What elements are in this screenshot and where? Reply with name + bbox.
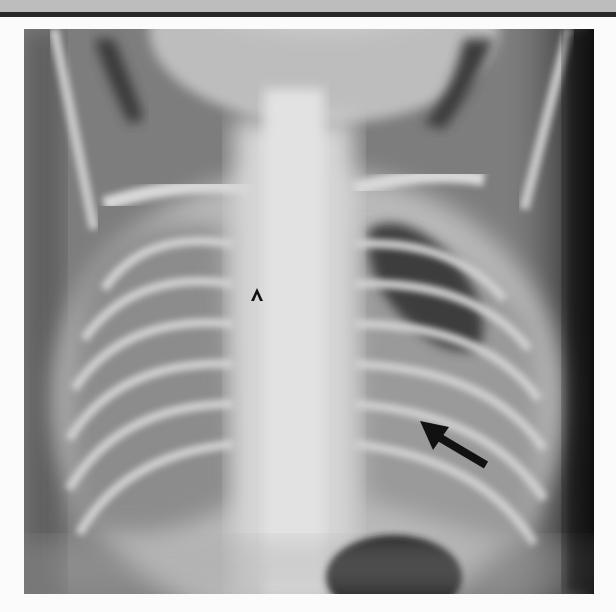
top-dark-rule	[0, 12, 616, 17]
chest-xray-image	[24, 29, 594, 594]
xray-rendering	[24, 29, 594, 594]
top-gray-band	[0, 0, 616, 12]
